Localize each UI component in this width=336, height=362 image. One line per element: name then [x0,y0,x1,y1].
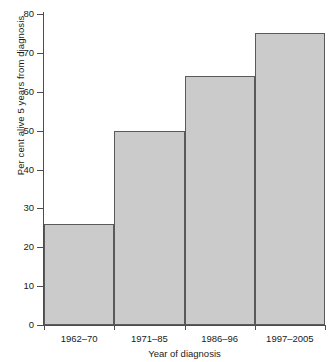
y-tick-label: 40 [8,165,34,175]
y-tick-mark [37,208,43,209]
bar-1962–70 [44,224,114,325]
y-tick-label: 30 [8,203,34,213]
y-tick-mark [37,14,43,15]
x-axis-title: Year of diagnosis [44,348,325,359]
y-tick-mark [37,325,43,326]
y-tick-mark [37,131,43,132]
bar-1997–2005 [255,33,325,325]
x-tick-mark [325,326,326,330]
y-tick-label: 50 [8,126,34,136]
x-tick-mark [44,326,45,330]
x-tick-mark [185,326,186,330]
y-tick-mark [37,286,43,287]
plot-area [44,14,325,325]
bar-1971–85 [114,131,184,325]
y-tick-mark [37,247,43,248]
y-tick-label: 70 [8,48,34,58]
x-tick-label: 1997–2005 [245,333,335,344]
y-tick-label: 80 [8,9,34,19]
y-tick-mark [37,53,43,54]
bar-chart-figure: Per cent alive 5 years from diagnosis 01… [0,0,336,362]
y-tick-mark [37,170,43,171]
y-tick-label: 10 [8,281,34,291]
x-tick-mark [255,326,256,330]
bar-1986–96 [185,76,255,325]
y-axis-title: Per cent alive 5 years from diagnosis [15,0,26,206]
y-tick-mark [37,92,43,93]
y-tick-label: 60 [8,87,34,97]
x-tick-mark [114,326,115,330]
y-tick-label: 0 [8,320,34,330]
y-tick-label: 20 [8,242,34,252]
